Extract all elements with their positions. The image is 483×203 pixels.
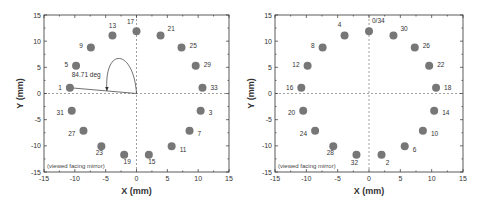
data-point bbox=[72, 62, 80, 70]
y-axis-label: Y (mm) bbox=[15, 78, 25, 108]
data-point bbox=[79, 127, 87, 135]
figure: -15-10-5051015-15-10-5051015X (mm)Y (mm)… bbox=[0, 0, 483, 203]
data-point bbox=[133, 27, 141, 35]
data-point bbox=[178, 43, 186, 51]
y-tick-label: 0 bbox=[268, 90, 272, 97]
y-tick-label: 10 bbox=[264, 38, 272, 45]
point-label: 14 bbox=[442, 109, 450, 116]
point-label: 30 bbox=[400, 25, 408, 32]
viewed-facing-mirror-note: (viewed facing mirror) bbox=[278, 163, 336, 169]
point-label: 4 bbox=[338, 21, 342, 28]
x-axis-label: X (mm) bbox=[354, 186, 385, 196]
y-tick-label: 15 bbox=[33, 12, 41, 19]
point-label: 29 bbox=[204, 61, 212, 68]
point-label: 13 bbox=[109, 22, 117, 29]
data-point bbox=[66, 84, 74, 92]
x-tick-label: -5 bbox=[335, 175, 341, 182]
data-point bbox=[365, 27, 373, 35]
point-label: 31 bbox=[57, 109, 65, 116]
data-point bbox=[68, 107, 76, 115]
x-tick-label: -15 bbox=[39, 175, 49, 182]
x-tick-label: 10 bbox=[194, 175, 202, 182]
right-scatter-plot: -15-10-5051015-15-10-5051015X (mm)Y (mm)… bbox=[246, 12, 467, 197]
data-point bbox=[87, 43, 95, 51]
data-point bbox=[192, 62, 200, 70]
x-tick-label: 0 bbox=[367, 175, 371, 182]
data-point bbox=[299, 107, 307, 115]
data-point bbox=[401, 142, 409, 150]
x-tick-label: -5 bbox=[103, 175, 109, 182]
point-label: 20 bbox=[288, 109, 296, 116]
point-label: 6 bbox=[413, 146, 417, 153]
data-point bbox=[352, 151, 360, 159]
viewed-facing-mirror-note: (viewed facing mirror) bbox=[47, 163, 105, 169]
x-tick-label: -15 bbox=[270, 175, 280, 182]
data-point bbox=[319, 43, 327, 51]
data-point bbox=[297, 84, 305, 92]
x-tick-label: 15 bbox=[459, 175, 467, 182]
point-label: 16 bbox=[286, 84, 294, 91]
x-tick-label: 5 bbox=[165, 175, 169, 182]
point-label: 15 bbox=[148, 158, 156, 165]
point-label: 12 bbox=[292, 61, 300, 68]
y-tick-label: -15 bbox=[31, 169, 41, 176]
x-tick-label: 10 bbox=[428, 175, 436, 182]
x-tick-label: -10 bbox=[70, 175, 80, 182]
point-label: 19 bbox=[124, 158, 132, 165]
point-label: 22 bbox=[437, 61, 445, 68]
point-label: 11 bbox=[180, 146, 187, 153]
point-label: 24 bbox=[300, 130, 308, 137]
y-tick-label: 10 bbox=[33, 38, 41, 45]
point-label: 28 bbox=[327, 149, 335, 156]
y-tick-label: 0 bbox=[37, 90, 41, 97]
point-label: 10 bbox=[431, 130, 439, 137]
y-tick-label: -5 bbox=[35, 116, 41, 123]
point-label: 18 bbox=[444, 84, 452, 91]
y-tick-label: 5 bbox=[37, 64, 41, 71]
data-point bbox=[186, 127, 194, 135]
point-label: 25 bbox=[190, 42, 198, 49]
point-label: 17 bbox=[127, 18, 135, 25]
point-label: 0/34 bbox=[372, 17, 385, 24]
y-tick-label: -5 bbox=[266, 116, 272, 123]
data-point bbox=[197, 107, 205, 115]
point-label: 3 bbox=[209, 109, 213, 116]
data-point bbox=[311, 127, 319, 135]
left-scatter-plot: -15-10-5051015-15-10-5051015X (mm)Y (mm)… bbox=[15, 12, 233, 197]
point-label: 8 bbox=[311, 42, 315, 49]
y-tick-label: -15 bbox=[262, 169, 272, 176]
angle-arc bbox=[107, 58, 137, 93]
angle-label: 84.71 deg bbox=[72, 71, 101, 79]
point-label: 26 bbox=[423, 42, 431, 49]
point-label: 33 bbox=[210, 84, 218, 91]
y-tick-label: -10 bbox=[31, 142, 41, 149]
y-tick-label: 15 bbox=[264, 12, 272, 19]
data-point bbox=[425, 62, 433, 70]
point-label: 1 bbox=[58, 84, 62, 91]
x-tick-label: 15 bbox=[225, 175, 233, 182]
data-point bbox=[341, 31, 349, 39]
x-tick-label: 0 bbox=[135, 175, 139, 182]
point-label: 9 bbox=[79, 42, 83, 49]
angle-ray bbox=[70, 88, 137, 94]
y-tick-label: -10 bbox=[262, 142, 272, 149]
data-point bbox=[389, 31, 397, 39]
data-point bbox=[419, 127, 427, 135]
data-point bbox=[378, 151, 386, 159]
data-point bbox=[168, 142, 176, 150]
data-point bbox=[108, 31, 116, 39]
point-label: 23 bbox=[96, 149, 104, 156]
y-tick-label: 5 bbox=[268, 64, 272, 71]
point-label: 32 bbox=[351, 159, 359, 166]
x-axis-label: X (mm) bbox=[121, 186, 152, 196]
x-tick-label: 5 bbox=[398, 175, 402, 182]
data-point bbox=[411, 43, 419, 51]
x-tick-label: -10 bbox=[301, 175, 311, 182]
y-axis-label: Y (mm) bbox=[246, 78, 256, 108]
point-label: 27 bbox=[68, 130, 76, 137]
data-point bbox=[430, 107, 438, 115]
arrow-head-icon bbox=[105, 87, 109, 91]
point-label: 2 bbox=[386, 159, 390, 166]
data-point bbox=[157, 31, 165, 39]
point-label: 7 bbox=[198, 130, 202, 137]
